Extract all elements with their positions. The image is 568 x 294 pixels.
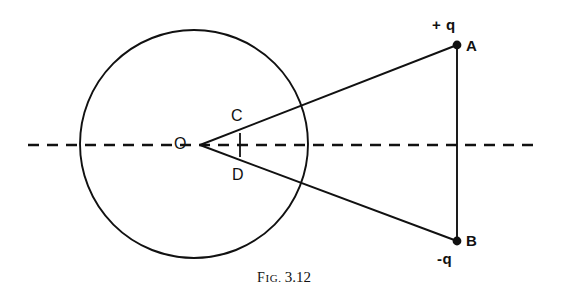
ray-o-to-a (200, 45, 457, 145)
figure-caption: FIG.3.12 (0, 268, 568, 286)
label-point-d: D (232, 167, 244, 183)
point-marker-a (453, 41, 462, 50)
label-point-b: B (466, 233, 477, 248)
ray-o-to-b (200, 145, 457, 241)
figure-container: O C D + q A B -q FIG.3.12 (0, 0, 568, 294)
caption-prefix-smallcaps: IG. (265, 272, 281, 284)
label-center-o: O (174, 136, 186, 152)
electrostatics-dipole-diagram (0, 0, 568, 294)
caption-number: 3.12 (285, 269, 311, 285)
caption-prefix: FIG. (257, 272, 282, 284)
point-marker-b (453, 237, 462, 246)
label-point-a: A (466, 38, 477, 53)
label-charge-negative: -q (437, 251, 452, 266)
label-charge-positive: + q (432, 17, 456, 32)
label-point-c: C (231, 108, 243, 124)
